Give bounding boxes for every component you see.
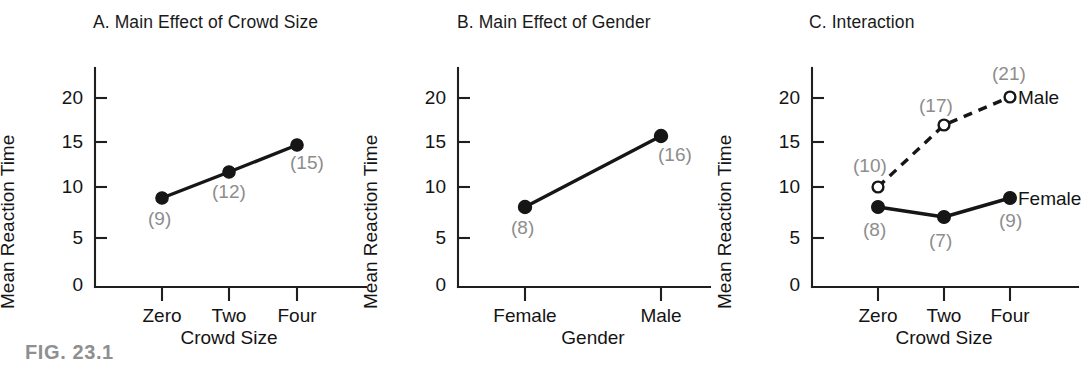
panel-b-value-label-female: (8) xyxy=(511,217,534,239)
panel-c-xtick-label-zero: Zero xyxy=(858,305,897,327)
panel-b-xtick-label-female: Female xyxy=(493,305,556,327)
panel-a-xtick-label-four: Four xyxy=(277,305,316,327)
panel-b-point-female xyxy=(518,200,531,213)
panel-a-point-two xyxy=(223,166,235,178)
panel-b-ytick-label-15: 15 xyxy=(402,131,446,153)
panel-a-ytick-label-10: 10 xyxy=(39,176,83,198)
panel-c-xtick-label-two: Two xyxy=(927,305,962,327)
panel-a-main-effect-crowd-size: A. Main Effect of Crowd Size 0 5 10 15 xyxy=(0,0,385,369)
panel-a-ytick-label-20: 20 xyxy=(39,87,83,109)
panel-c-ytick-label-0: 0 xyxy=(756,274,800,296)
figure-caption: FIG. 23.1 xyxy=(25,341,114,364)
panel-a-xtick-label-zero: Zero xyxy=(142,305,181,327)
panel-a-point-zero xyxy=(156,192,168,204)
panel-c-female-point-four xyxy=(1004,192,1017,205)
panel-a-value-label-two: (12) xyxy=(212,181,246,203)
panel-c-male-point-four xyxy=(1005,92,1016,103)
panel-c-series-label-female: Female xyxy=(1018,188,1081,210)
panel-a-point-four xyxy=(291,139,303,151)
panel-b-ytick-label-5: 5 xyxy=(402,227,446,249)
panel-b-value-label-male: (16) xyxy=(658,144,692,166)
panel-c-female-value-label-zero: (8) xyxy=(863,219,886,241)
panel-c-male-point-two xyxy=(939,120,950,131)
panel-b-y-axis-title: Mean Reaction Time xyxy=(360,135,382,309)
panel-b-ytick-label-10: 10 xyxy=(402,176,446,198)
panel-c-xtick-label-four: Four xyxy=(990,305,1029,327)
panel-c-female-value-label-four: (9) xyxy=(999,210,1022,232)
panel-a-ytick-label-15: 15 xyxy=(39,131,83,153)
panel-c-male-value-label-two: (17) xyxy=(919,95,953,117)
panel-b-point-male xyxy=(654,129,667,142)
panel-c-male-value-label-zero: (10) xyxy=(853,155,887,177)
panel-b-x-axis-title: Gender xyxy=(561,327,624,349)
panel-c-y-axis-title: Mean Reaction Time xyxy=(714,135,736,309)
panel-a-value-label-zero: (9) xyxy=(148,208,171,230)
panel-c-male-value-label-four: (21) xyxy=(992,63,1026,85)
panel-a-xtick-label-two: Two xyxy=(212,305,247,327)
panel-a-ytick-label-5: 5 xyxy=(39,227,83,249)
panel-c-male-point-zero xyxy=(873,182,884,193)
panel-c-female-value-label-two: (7) xyxy=(929,230,952,252)
panel-a-value-label-four: (15) xyxy=(290,152,324,174)
panel-c-female-point-two xyxy=(938,211,951,224)
panel-a-y-axis-title: Mean Reaction Time xyxy=(0,135,19,309)
panel-c-interaction: C. Interaction 0 5 10 15 20 xyxy=(725,0,1090,369)
panel-b-series-line xyxy=(525,136,661,207)
panel-c-ytick-label-10: 10 xyxy=(756,176,800,198)
panel-c-ytick-label-15: 15 xyxy=(756,131,800,153)
panel-a-ytick-label-0: 0 xyxy=(39,274,83,296)
panel-b-ytick-label-20: 20 xyxy=(402,87,446,109)
panel-b-main-effect-gender: B. Main Effect of Gender 0 5 10 15 20 Fe… xyxy=(385,0,725,369)
panel-c-ytick-label-5: 5 xyxy=(756,227,800,249)
panel-b-ytick-label-0: 0 xyxy=(402,274,446,296)
panel-b-xtick-label-male: Male xyxy=(640,305,681,327)
panel-c-series-label-male: Male xyxy=(1018,87,1059,109)
panel-c-female-point-zero xyxy=(872,201,885,214)
panel-a-x-axis-title: Crowd Size xyxy=(180,327,277,349)
panel-c-x-axis-title: Crowd Size xyxy=(895,327,992,349)
figure-23-1: A. Main Effect of Crowd Size 0 5 10 15 xyxy=(0,0,1090,369)
panel-c-ytick-label-20: 20 xyxy=(756,87,800,109)
